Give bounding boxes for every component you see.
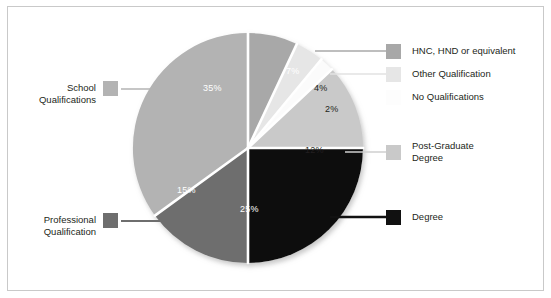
callout-label-hnc-hnd: HNC, HND or equivalent: [412, 45, 542, 57]
callout-label-professional-qualification: Professional Qualification: [10, 214, 96, 238]
pie-slices: [133, 33, 363, 263]
callout-swatch-no-qualifications: [386, 90, 401, 105]
callout-swatch-school-qualifications: [103, 81, 118, 96]
slice-value-professional: 15%: [177, 185, 196, 195]
callout-label-school-qualifications: School Qualifications: [18, 82, 96, 106]
slice-value-postgrad: 12%: [305, 145, 324, 155]
pie-slice-degree: [248, 148, 363, 263]
slice-value-other: 4%: [314, 83, 327, 93]
callout-label-other-qualification: Other Qualification: [412, 68, 542, 80]
callout-label-no-qualifications: No Qualifications: [412, 91, 542, 103]
pie-chart-figure: 35% 7% 4% 2% 12% 25% 15% School Qualific…: [0, 0, 551, 298]
callout-label-post-graduate-degree: Post-Graduate Degree: [412, 140, 532, 164]
callout-swatch-professional-qualification: [103, 213, 118, 228]
slice-value-school: 35%: [203, 83, 222, 93]
callout-label-degree: Degree: [412, 211, 532, 223]
callout-swatch-degree: [386, 210, 401, 225]
callout-swatch-other-qualification: [386, 67, 401, 82]
slice-value-degree: 25%: [240, 204, 259, 214]
slice-value-hnc: 7%: [286, 66, 299, 76]
callout-swatch-post-graduate-degree: [386, 145, 401, 160]
slice-value-none: 2%: [325, 104, 338, 114]
callout-swatch-hnc-hnd: [386, 44, 401, 59]
